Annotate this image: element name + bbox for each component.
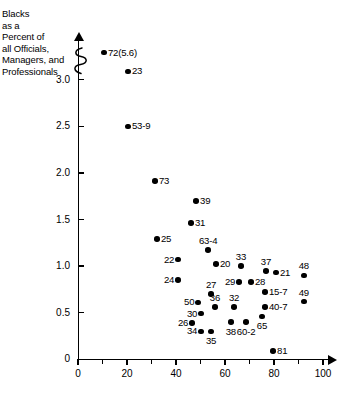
y-tick-label: 0 [28,353,70,364]
x-tick-mark [175,359,176,365]
x-tick-mark [77,359,78,365]
data-point-label: 29 [225,277,235,287]
data-point [198,329,204,335]
data-point [301,273,307,279]
data-point-label: 39 [200,196,210,206]
data-point-label: 37 [261,257,271,267]
x-tick-mark-minor [200,359,201,363]
data-point [198,311,204,317]
data-point [301,299,307,305]
x-tick-label: 80 [254,368,294,379]
x-tick-label: 0 [58,368,98,379]
data-point-label: 38 [226,327,236,337]
data-point [262,289,268,295]
data-point-label: 35 [206,336,216,346]
data-point [152,178,158,184]
data-point-label: 21 [280,268,290,278]
x-tick-label: 20 [107,368,147,379]
data-point [236,279,242,285]
data-point [273,270,279,276]
y-tick-label: 0.5 [28,307,70,318]
x-tick-mark [322,359,323,365]
data-point [205,247,211,253]
data-point [270,348,276,354]
data-point-label: 22 [164,255,174,265]
data-point [238,263,244,269]
data-point-label: 33 [236,252,246,262]
y-tick-mark [78,219,84,220]
data-point-label: 72(5.6) [108,48,137,58]
data-point [208,329,214,335]
x-tick-mark [224,359,225,365]
data-point [231,304,237,310]
y-axis-label: Blacks as a Percent of all Officials, Ma… [2,8,78,78]
x-tick-mark-minor [102,359,103,363]
data-point [101,50,107,56]
data-point-label: 32 [229,293,239,303]
data-point-label: 73 [159,176,169,186]
data-point [188,220,194,226]
data-point-label: 63-4 [199,236,217,246]
y-tick-label: 2.5 [28,120,70,131]
data-point-label: 24 [164,275,174,285]
data-point [212,304,218,310]
x-tick-mark [126,359,127,365]
data-point-label: 28 [255,277,265,287]
data-point [263,268,269,274]
data-point-label: 49 [299,288,309,298]
data-point [154,236,160,242]
x-tick-mark-minor [249,359,250,363]
data-point-label: 23 [132,66,142,76]
data-point [175,257,181,263]
x-tick-mark-minor [151,359,152,363]
x-tick-mark-minor [298,359,299,363]
data-point-label: 40-7 [269,302,287,312]
y-tick-mark [78,265,84,266]
y-tick-mark [78,359,84,360]
y-tick-label: 3.0 [28,74,70,85]
y-tick-label: 1.5 [28,214,70,225]
data-point [213,261,219,267]
data-point-label: 25 [161,234,171,244]
data-point-label: 34 [187,326,197,336]
x-tick-mark [273,359,274,365]
data-point [175,277,181,283]
y-tick-label: 1.0 [28,260,70,271]
data-point-label: 36 [210,293,220,303]
data-point-label: 30 [187,309,197,319]
axis-break-icon [68,47,90,75]
data-point [259,314,265,320]
data-point-label: 20 [220,259,230,269]
x-axis-line [78,359,332,360]
x-tick-label: 40 [156,368,196,379]
y-tick-mark [78,312,84,313]
data-point-label: 48 [299,261,309,271]
data-point-label: 53-9 [132,121,150,131]
x-tick-label: 60 [205,368,245,379]
y-tick-mark [78,172,84,173]
data-point [193,198,199,204]
y-tick-label: 2.0 [28,167,70,178]
data-point-label: 50 [184,297,194,307]
data-point-label: 27 [206,280,216,290]
data-point-label: 15-7 [269,287,287,297]
data-point-label: 81 [277,346,287,356]
x-axis-arrow-icon [328,355,337,365]
data-point [195,300,201,306]
data-point [228,319,234,325]
y-tick-mark [78,126,84,127]
y-tick-mark [78,79,84,80]
data-point-label: 60-2 [237,327,255,337]
data-point [243,319,249,325]
data-point [125,124,131,130]
data-point [125,69,131,75]
data-point [262,304,268,310]
y-axis-arrow-icon [74,32,84,41]
x-tick-label: 100 [303,368,343,379]
data-point-label: 31 [195,218,205,228]
data-point-label: 65 [257,321,267,331]
scatter-plot-figure: Blacks as a Percent of all Officials, Ma… [0,0,346,399]
data-point [248,279,254,285]
